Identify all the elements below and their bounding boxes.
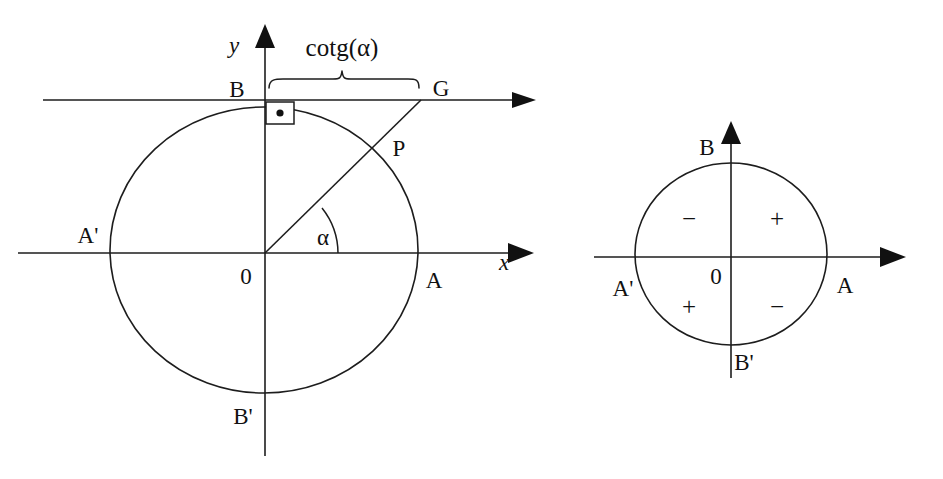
point-label-B: B [229,77,244,102]
x-axis-label: x [498,250,510,275]
tangent-line-arrowhead [512,92,536,108]
sign-chart-point-label-B: B [699,135,714,160]
math-figure-canvas: y x cotg(α) B G P A' A 0 B' α B A' A [0,0,943,479]
point-label-A-prime: A' [78,223,99,248]
sign-chart-y-axis-arrowhead [721,121,741,144]
sign-chart-point-label-B-prime: B' [734,350,754,375]
sign-quadrant-3: + [682,293,696,320]
unit-circle [110,107,418,393]
sign-quadrant-1: + [770,205,784,232]
right-diagram-group: B A' A 0 B' − + + − [594,121,906,378]
y-axis-label: y [227,33,240,58]
point-label-P: P [393,136,406,161]
x-axis-arrowhead [508,243,534,263]
cotangent-segment-label: cotg(α) [306,34,379,62]
angle-label-alpha: α [317,225,329,250]
sign-chart-point-label-A-prime: A' [613,276,634,301]
sign-chart-point-label-origin: 0 [710,264,722,289]
right-angle-dot [276,109,283,116]
point-label-B-prime: B' [233,404,253,429]
sign-quadrant-2: − [682,205,696,232]
point-label-origin: 0 [240,264,252,289]
sign-chart-x-axis-arrowhead [880,247,906,267]
y-axis-arrowhead [255,24,275,48]
point-label-G: G [433,76,450,101]
sign-quadrant-4: − [770,293,784,320]
figure-root: y x cotg(α) B G P A' A 0 B' α B A' A [0,0,943,479]
left-diagram-group: y x cotg(α) B G P A' A 0 B' α [18,24,536,456]
point-label-A: A [426,268,443,293]
sign-chart-point-label-A: A [837,273,854,298]
cotangent-brace [269,71,419,88]
